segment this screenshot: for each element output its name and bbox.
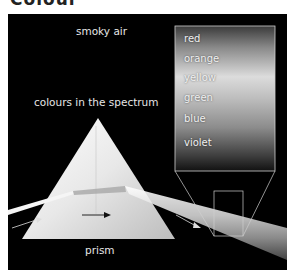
prism-shape (22, 118, 175, 239)
spectrum-label-blue: blue (184, 113, 206, 124)
diagram-panel: smoky air colours in the spectrum prism … (8, 14, 287, 270)
smoky-air-label: smoky air (76, 25, 127, 37)
colours-in-spectrum-label: colours in the spectrum (34, 96, 158, 108)
prism-diagram (8, 14, 287, 270)
spectrum-label-green: green (184, 92, 213, 103)
spectrum-label-orange: orange (184, 53, 219, 64)
spectrum-label-violet: violet (184, 137, 212, 148)
page-title: Colour (10, 0, 78, 8)
spectrum-label-yellow: yellow (184, 72, 216, 83)
prism-label: prism (85, 244, 115, 256)
spectrum-label-red: red (184, 33, 200, 44)
